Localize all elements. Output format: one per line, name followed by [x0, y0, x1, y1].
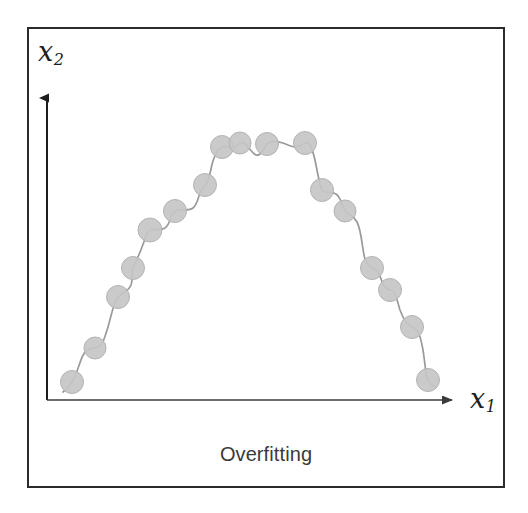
figure-caption: Overfitting [27, 443, 505, 466]
y-axis-label: x2 [38, 38, 64, 68]
overfitting-figure: x2 x1 Overfitting [0, 0, 528, 513]
y-axis-label-base: x [38, 36, 53, 67]
plot-canvas [0, 0, 528, 513]
y-axis-label-subscript: 2 [53, 50, 64, 69]
x-axis-label: x1 [470, 385, 496, 415]
scatter-points [61, 132, 440, 394]
x-axis-label-subscript: 1 [485, 397, 496, 416]
x-axis-label-base: x [470, 383, 485, 414]
